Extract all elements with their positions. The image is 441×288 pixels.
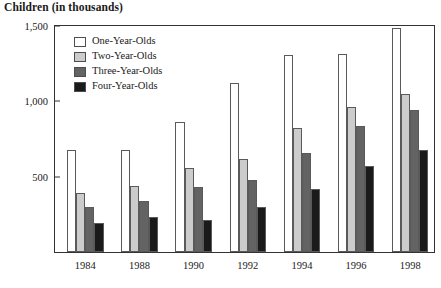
bar-group-1992: 1992 <box>230 26 266 252</box>
bar-1988-four-year-olds <box>149 217 158 252</box>
x-axis-label-1998: 1998 <box>400 260 421 271</box>
legend-item-three-year-olds: Three-Year-Olds <box>74 64 200 79</box>
bar-1996-one-year-olds <box>338 54 347 252</box>
bar-1984-three-year-olds <box>85 207 94 252</box>
y-axis-label: 1,500 <box>24 21 48 32</box>
bar-1994-four-year-olds <box>311 189 320 252</box>
bar-1992-four-year-olds <box>257 207 266 252</box>
legend-label: Three-Year-Olds <box>92 66 162 77</box>
bar-1998-two-year-olds <box>401 94 410 252</box>
legend-label: One-Year-Olds <box>92 36 155 47</box>
bar-chart: Children (in thousands) 5001,0001,500 19… <box>0 0 441 288</box>
bar-1998-four-year-olds <box>419 150 428 252</box>
bar-1984-two-year-olds <box>76 193 85 252</box>
bar-group-1996: 1996 <box>338 26 374 252</box>
legend-item-one-year-olds: One-Year-Olds <box>74 34 200 49</box>
legend-item-two-year-olds: Two-Year-Olds <box>74 49 200 64</box>
plot-area: 5001,0001,500 19841988199019921994199619… <box>54 25 435 253</box>
bar-1990-one-year-olds <box>175 122 184 252</box>
x-axis-label-1988: 1988 <box>129 260 150 271</box>
bar-1984-four-year-olds <box>94 223 103 252</box>
x-axis-label-1992: 1992 <box>237 260 258 271</box>
chart-legend: One-Year-OldsTwo-Year-OldsThree-Year-Old… <box>74 34 200 94</box>
bar-1996-three-year-olds <box>356 126 365 252</box>
legend-item-four-year-olds: Four-Year-Olds <box>74 79 200 94</box>
bar-1992-two-year-olds <box>239 159 248 252</box>
bar-1984-one-year-olds <box>67 150 76 252</box>
bar-1998-three-year-olds <box>410 110 419 252</box>
bar-1998-one-year-olds <box>392 28 401 252</box>
bar-1994-three-year-olds <box>302 153 311 252</box>
legend-swatch-icon <box>74 82 86 92</box>
x-axis-label-1990: 1990 <box>183 260 204 271</box>
x-axis-label-1994: 1994 <box>291 260 312 271</box>
bar-1994-one-year-olds <box>284 55 293 252</box>
legend-swatch-icon <box>74 67 86 77</box>
legend-swatch-icon <box>74 52 86 62</box>
bar-group-1998: 1998 <box>392 26 428 252</box>
bar-1992-three-year-olds <box>248 180 257 252</box>
bar-1988-one-year-olds <box>121 150 130 252</box>
y-axis-label: 500 <box>32 171 48 182</box>
bar-1988-two-year-olds <box>130 186 139 252</box>
legend-label: Two-Year-Olds <box>92 51 156 62</box>
bar-1996-two-year-olds <box>347 107 356 252</box>
bar-1988-three-year-olds <box>139 201 148 252</box>
bar-group-1994: 1994 <box>284 26 320 252</box>
y-axis-label: 1,000 <box>24 96 48 107</box>
x-axis-label-1996: 1996 <box>346 260 367 271</box>
x-axis-label-1984: 1984 <box>75 260 96 271</box>
legend-label: Four-Year-Olds <box>92 81 158 92</box>
bar-1994-two-year-olds <box>293 128 302 252</box>
bar-1990-two-year-olds <box>185 168 194 252</box>
bar-1992-one-year-olds <box>230 83 239 252</box>
bar-1990-three-year-olds <box>194 187 203 252</box>
legend-swatch-icon <box>74 37 86 47</box>
chart-title: Children (in thousands) <box>4 1 123 13</box>
bar-1990-four-year-olds <box>203 220 212 252</box>
bar-1996-four-year-olds <box>365 166 374 252</box>
